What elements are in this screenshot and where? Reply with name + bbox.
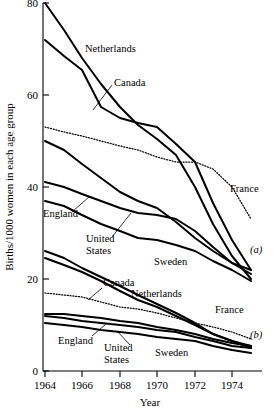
x-tick-label-1970: 1970 <box>146 379 169 391</box>
annotation-a-england: England <box>43 208 79 219</box>
series-a-united-states <box>45 141 251 270</box>
x-axis-title: Year <box>140 396 161 408</box>
x-tick-label-1964: 1964 <box>34 379 57 391</box>
panel-a-tag: (a) <box>250 244 263 256</box>
leader-b-canada <box>88 288 102 300</box>
y-tick-labels: 80 60 40 20 0 <box>27 0 39 377</box>
x-tick-label-1972: 1972 <box>184 379 206 391</box>
panel-a-annotations: Netherlands Canada France England United… <box>43 43 263 267</box>
annotation-a-netherlands: Netherlands <box>85 43 136 54</box>
y-tick-label-80: 80 <box>27 0 39 9</box>
annotation-b-sweden: Sweden <box>155 347 189 358</box>
x-tick-label-1968: 1968 <box>109 379 132 391</box>
annotation-a-canada: Canada <box>114 77 146 88</box>
annotation-b-united: United <box>104 342 133 353</box>
series-a-netherlands <box>45 3 251 279</box>
chart-svg: 80 60 40 20 0 1964 1966 1968 1970 1972 1… <box>0 0 279 410</box>
annotation-a-united: United <box>86 233 115 244</box>
y-tick-label-60: 60 <box>27 89 39 101</box>
annotation-b-england: England <box>58 335 94 346</box>
annotation-b-states: States <box>104 354 129 365</box>
panel-a-series <box>45 3 251 281</box>
annotation-a-sweden: Sweden <box>154 256 188 267</box>
annotation-b-france: France <box>215 304 244 315</box>
y-tick-label-20: 20 <box>27 273 39 285</box>
series-a-england <box>45 182 251 274</box>
annotation-a-states: States <box>86 245 111 256</box>
y-tick-label-40: 40 <box>27 181 39 193</box>
x-tick-labels: 1964 1966 1968 1970 1972 1974 <box>34 379 244 391</box>
chart-figure: 80 60 40 20 0 1964 1966 1968 1970 1972 1… <box>0 0 279 410</box>
annotation-a-france: France <box>230 183 259 194</box>
annotation-b-netherlands: Netherlands <box>131 288 182 299</box>
x-tick-label-1966: 1966 <box>71 379 94 391</box>
panel-b-tag: (b) <box>250 329 263 341</box>
y-axis-title: Births/1000 women in each age group <box>3 103 15 271</box>
annotation-b-canada: Canada <box>103 277 135 288</box>
x-tick-label-1974: 1974 <box>221 379 244 391</box>
y-tick-label-0: 0 <box>33 365 39 377</box>
